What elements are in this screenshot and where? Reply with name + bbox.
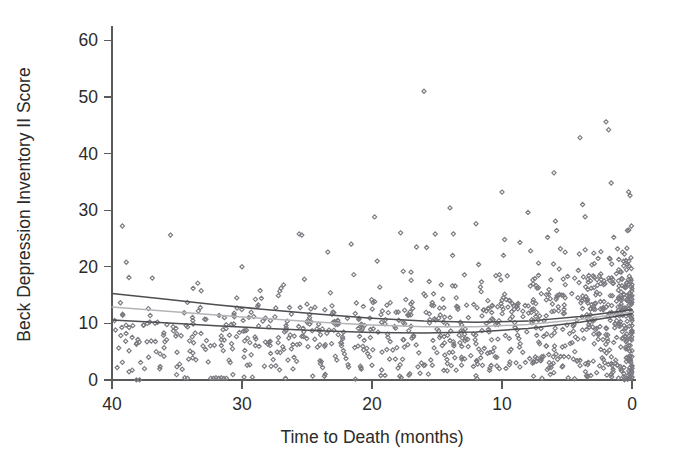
x-tick-label: 0 [627,394,637,414]
y-tick-label: 50 [79,87,99,107]
x-tick-label: 10 [492,394,512,414]
x-tick-label: 40 [102,394,122,414]
x-axis-title: Time to Death (months) [280,427,463,447]
y-tick-label: 40 [79,144,99,164]
chart-figure: 0102030405060 403020100 Beck Depression … [0,0,676,469]
y-axis-title: Beck Depression Inventory II Score [14,67,34,341]
y-tick-label: 10 [79,313,99,333]
y-tick-label: 0 [88,370,98,390]
x-tick-label: 20 [362,394,382,414]
x-tick-label: 30 [232,394,252,414]
y-tick-label: 60 [79,30,99,50]
y-tick-label: 30 [79,200,99,220]
y-tick-label: 20 [79,257,99,277]
scatter-plot: 0102030405060 403020100 Beck Depression … [0,0,676,469]
